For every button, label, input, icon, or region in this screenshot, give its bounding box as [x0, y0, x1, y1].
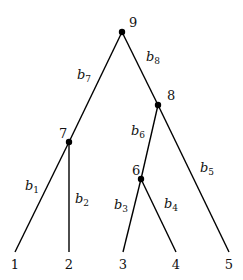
- leaf-label-1: 1: [11, 257, 19, 272]
- leaf-label-4: 4: [172, 257, 180, 272]
- edge-label-b4: b4: [164, 196, 178, 213]
- node-label-8: 8: [167, 88, 175, 103]
- edge-label-b7: b7: [77, 67, 91, 84]
- edge-label-b6: b6: [131, 123, 145, 140]
- edge-8-6: [141, 105, 158, 179]
- internal-node-8: [155, 102, 161, 108]
- edge-labels: b1b2b3b4b5b6b7b8: [25, 49, 214, 214]
- edge-6-4: [141, 179, 176, 252]
- edge-8-5: [158, 105, 229, 252]
- node-label-9: 9: [129, 15, 137, 30]
- edge-7-1: [15, 142, 69, 252]
- node-label-7: 7: [59, 126, 67, 141]
- node-label-6: 6: [132, 163, 140, 178]
- edge-label-b3: b3: [114, 197, 128, 214]
- edge-label-b2: b2: [75, 191, 89, 208]
- edge-label-b8: b8: [146, 49, 160, 66]
- leaf-label-2: 2: [65, 257, 73, 272]
- node-labels: 123456789: [11, 15, 233, 272]
- internal-node-9: [119, 29, 125, 35]
- edge-6-3: [123, 179, 141, 252]
- tree-edges: [15, 32, 229, 252]
- leaf-label-3: 3: [119, 257, 127, 272]
- leaf-label-5: 5: [225, 257, 233, 272]
- edge-9-7: [69, 32, 122, 142]
- edge-label-b1: b1: [25, 178, 39, 195]
- edge-9-8: [122, 32, 158, 105]
- edge-label-b5: b5: [200, 160, 214, 177]
- phylogenetic-tree: b1b2b3b4b5b6b7b8 123456789: [0, 0, 243, 280]
